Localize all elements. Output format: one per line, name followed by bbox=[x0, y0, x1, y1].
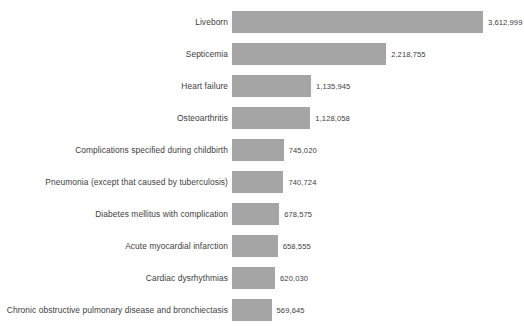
category-label: Diabetes mellitus with complication bbox=[0, 209, 232, 219]
bar bbox=[232, 235, 278, 257]
value-label: 745,020 bbox=[284, 146, 317, 155]
bar-row: Cardiac dysrhythmias620,030 bbox=[0, 262, 524, 294]
bar bbox=[232, 299, 272, 321]
bar-container: 569,645 bbox=[232, 294, 524, 326]
value-label: 658,555 bbox=[278, 242, 311, 251]
bar-container: 2,218,755 bbox=[232, 38, 524, 70]
value-label: 3,612,999 bbox=[483, 18, 522, 27]
bar-row: Septicemia2,218,755 bbox=[0, 38, 524, 70]
bar-row: Heart failure1,135,945 bbox=[0, 70, 524, 102]
bar-container: 1,128,058 bbox=[232, 102, 524, 134]
bar-container: 3,612,999 bbox=[232, 6, 524, 38]
category-label: Cardiac dysrhythmias bbox=[0, 273, 232, 283]
value-label: 1,135,945 bbox=[311, 82, 350, 91]
category-label: Pneumonia (except that caused by tubercu… bbox=[0, 177, 232, 187]
bar-container: 740,724 bbox=[232, 166, 524, 198]
category-label: Septicemia bbox=[0, 49, 232, 59]
value-label: 569,645 bbox=[272, 306, 305, 315]
category-label: Acute myocardial infarction bbox=[0, 241, 232, 251]
bar-container: 745,020 bbox=[232, 134, 524, 166]
bar-row: Osteoarthritis1,128,058 bbox=[0, 102, 524, 134]
bar-row: Chronic obstructive pulmonary disease an… bbox=[0, 294, 524, 326]
bar bbox=[232, 43, 386, 65]
category-label: Chronic obstructive pulmonary disease an… bbox=[0, 305, 232, 315]
value-label: 1,128,058 bbox=[310, 114, 349, 123]
category-label: Osteoarthritis bbox=[0, 113, 232, 123]
bar-container: 1,135,945 bbox=[232, 70, 524, 102]
bar bbox=[232, 107, 310, 129]
bar-row: Acute myocardial infarction658,555 bbox=[0, 230, 524, 262]
value-label: 2,218,755 bbox=[386, 50, 425, 59]
value-label: 740,724 bbox=[283, 178, 316, 187]
bar-container: 658,555 bbox=[232, 230, 524, 262]
bar-chart: Liveborn3,612,999Septicemia2,218,755Hear… bbox=[0, 0, 524, 331]
category-label: Complications specified during childbirt… bbox=[0, 145, 232, 155]
value-label: 678,575 bbox=[279, 210, 312, 219]
bar-row: Complications specified during childbirt… bbox=[0, 134, 524, 166]
bar-container: 678,575 bbox=[232, 198, 524, 230]
chart-plot-area: Liveborn3,612,999Septicemia2,218,755Hear… bbox=[0, 0, 524, 331]
bar bbox=[232, 75, 311, 97]
bar-row: Pneumonia (except that caused by tubercu… bbox=[0, 166, 524, 198]
bar-row: Diabetes mellitus with complication678,5… bbox=[0, 198, 524, 230]
bar-row: Liveborn3,612,999 bbox=[0, 6, 524, 38]
bar bbox=[232, 171, 283, 193]
bar bbox=[232, 11, 483, 33]
category-label: Liveborn bbox=[0, 17, 232, 27]
bar bbox=[232, 139, 284, 161]
bar bbox=[232, 267, 275, 289]
value-label: 620,030 bbox=[275, 274, 308, 283]
category-label: Heart failure bbox=[0, 81, 232, 91]
bar bbox=[232, 203, 279, 225]
bar-container: 620,030 bbox=[232, 262, 524, 294]
